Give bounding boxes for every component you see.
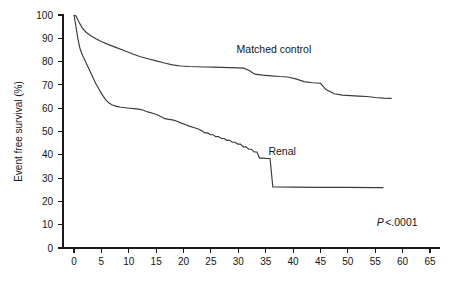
y-tick-label: 60 <box>42 103 54 114</box>
x-tick-label: 40 <box>288 256 300 267</box>
x-tick-label: 0 <box>71 256 77 267</box>
matched-control-label: Matched control <box>237 43 312 55</box>
x-tick-label: 15 <box>151 256 163 267</box>
y-tick-label: 50 <box>42 126 54 137</box>
y-tick-label: 20 <box>42 196 54 207</box>
y-tick-label: 30 <box>42 173 54 184</box>
x-tick-label: 25 <box>205 256 217 267</box>
y-tick-label: 10 <box>42 219 54 230</box>
x-tick-label: 5 <box>99 256 105 267</box>
y-axis-title: Event free survival (%) <box>13 81 24 182</box>
y-tick-label: 40 <box>42 149 54 160</box>
x-tick-label: 30 <box>233 256 245 267</box>
x-tick-label: 60 <box>397 256 409 267</box>
x-tick-label: 55 <box>370 256 382 267</box>
x-tick-label: 35 <box>260 256 272 267</box>
survival-chart: 0102030405060708090100 05101520253035404… <box>0 0 471 281</box>
series-paths <box>74 15 392 188</box>
renal-label: Renal <box>268 145 295 157</box>
p-value: P<.0001 <box>377 216 418 228</box>
y-tick-label: 100 <box>36 10 53 21</box>
y-tick-label: 70 <box>42 80 54 91</box>
x-tick-label: 65 <box>424 256 436 267</box>
x-axis-ticks: 05101520253035404550556065 <box>71 248 436 267</box>
y-tick-label: 0 <box>47 243 53 254</box>
chart-annotations: Matched controlRenalP<.0001 <box>237 43 418 227</box>
x-tick-label: 10 <box>123 256 135 267</box>
series-line-matched-control <box>74 15 392 98</box>
series-line-renal <box>74 15 383 188</box>
y-tick-label: 90 <box>42 33 54 44</box>
y-tick-label: 80 <box>42 56 54 67</box>
x-tick-label: 45 <box>315 256 327 267</box>
x-tick-label: 50 <box>342 256 354 267</box>
y-axis-ticks: 0102030405060708090100 <box>36 10 63 254</box>
x-tick-label: 20 <box>178 256 190 267</box>
chart-canvas: 0102030405060708090100 05101520253035404… <box>0 0 471 281</box>
